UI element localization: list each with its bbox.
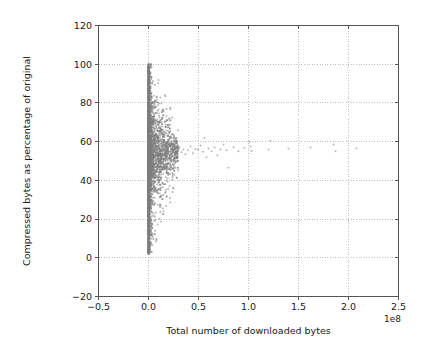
y-tick-label: 100 — [74, 59, 92, 70]
x-tick-label: 2.0 — [341, 301, 356, 312]
y-tick-label: 80 — [80, 97, 92, 108]
y-tick-label: 20 — [80, 213, 92, 224]
y-tick-label: −20 — [72, 291, 92, 302]
x-axis-label: Total number of downloaded bytes — [165, 325, 331, 336]
plot-canvas: −0.50.00.51.01.52.02.5−20020406080100120… — [0, 0, 427, 349]
x-tick-label: 0.5 — [191, 301, 206, 312]
x-tick-label: 1.5 — [291, 301, 306, 312]
x-tick-label: 0.0 — [141, 301, 156, 312]
x-tick-label: 2.5 — [391, 301, 406, 312]
y-tick-label: 40 — [80, 175, 92, 186]
y-tick-label: 60 — [80, 136, 92, 147]
y-tick-label: 120 — [74, 20, 92, 31]
x-tick-label: 1.0 — [241, 301, 256, 312]
y-tick-label: 0 — [86, 252, 92, 263]
scatter-plot-figure: −0.50.00.51.01.52.02.5−20020406080100120… — [0, 0, 427, 349]
y-axis-label: Compressed bytes as percentage of origin… — [21, 56, 32, 266]
x-axis-offset-label: 1e8 — [384, 314, 401, 324]
x-tick-label: −0.5 — [87, 301, 110, 312]
